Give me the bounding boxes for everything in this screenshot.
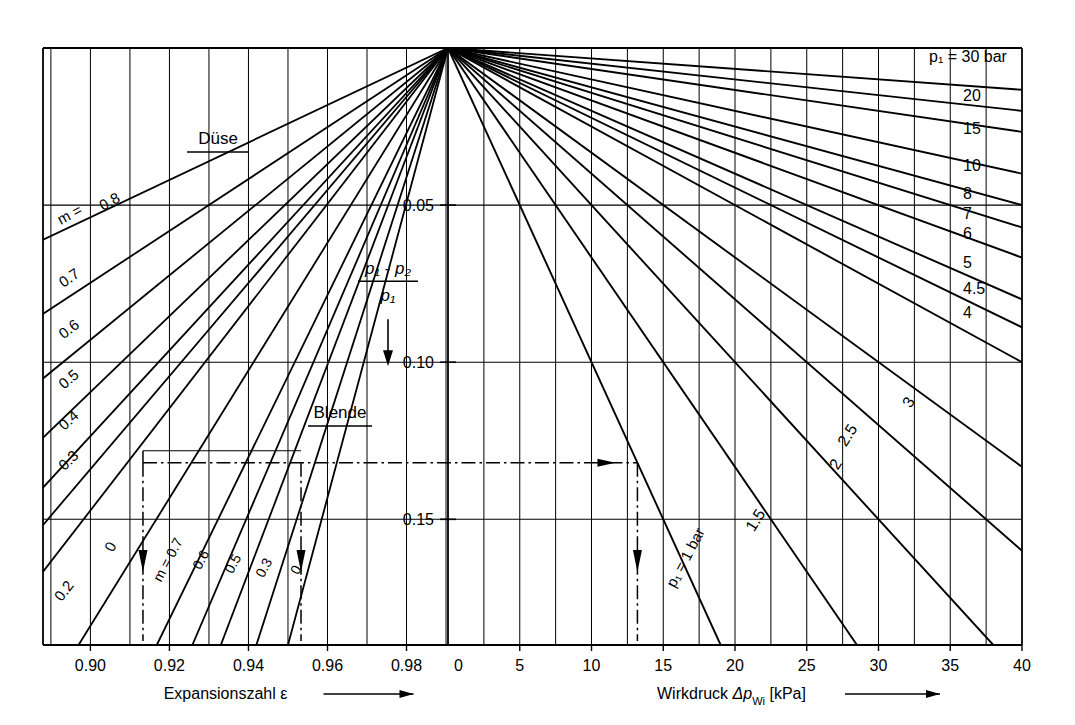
x-tick-right-20: 20 <box>726 657 744 674</box>
x-axis-title-left: Expansionszahl ε <box>164 685 288 702</box>
construction-arrow-down-wirkdruck <box>633 550 642 572</box>
x-tick-left-0.92: 0.92 <box>154 657 185 674</box>
p1-curve-2 <box>448 48 993 645</box>
duese-label-0: 0 <box>101 539 120 554</box>
duese-label-0.4: 0.4 <box>55 407 82 434</box>
p1-label-4p5: 4.5 <box>963 280 985 297</box>
duese-label-0.6: 0.6 <box>55 316 82 342</box>
p1-label-4: 4 <box>963 304 972 321</box>
p1-label-8: 8 <box>963 185 972 202</box>
x-tick-right-35: 35 <box>941 657 959 674</box>
p1-label-2: 2 <box>826 456 845 473</box>
y-tick-0.15: 0.15 <box>403 511 434 528</box>
duese-label-0.8: 0.8 <box>96 189 122 214</box>
p1-label-6: 6 <box>963 225 972 242</box>
blende-label-0.3: 0.3 <box>252 555 275 580</box>
construction-arrow-right <box>597 459 615 467</box>
x-tick-right-5: 5 <box>515 657 524 674</box>
group-title-duese: Düse <box>198 129 238 148</box>
x-tick-right-40: 40 <box>1013 657 1031 674</box>
x-tick-right-30: 30 <box>870 657 888 674</box>
duese-label-0.2: 0.2 <box>51 577 77 604</box>
x-axis-title-right: Wirkdruck ΔpWi [kPa] <box>657 685 806 707</box>
y-tick-0.05: 0.05 <box>403 197 434 214</box>
nomogram-figure: 0.900.920.940.960.9805101520253035400.05… <box>0 0 1075 725</box>
blende-curve-0.3 <box>256 48 448 645</box>
p1-label-10: 10 <box>963 157 981 174</box>
y-axis-label-numerator: p₁ - p₂ <box>364 259 411 278</box>
p1-label-3: 3 <box>899 394 918 411</box>
x-tick-left-0.98: 0.98 <box>391 657 422 674</box>
labels-layer: 0.900.920.940.960.9805101520253035400.05… <box>51 48 1031 707</box>
p1-label-5: 5 <box>963 254 972 271</box>
p1-series-header: p₁ = 30 bar <box>929 48 1008 65</box>
p1-label-7: 7 <box>963 205 972 222</box>
p1-label-15: 15 <box>963 120 981 137</box>
curves-layer <box>40 48 1022 645</box>
duese-curve-0 <box>79 48 448 645</box>
p1-label-2p5: 2.5 <box>834 421 860 449</box>
duese-curve-0.2 <box>40 48 448 576</box>
y-axis-label-denominator: p₁ <box>380 286 396 305</box>
group-title-blende: Blende <box>314 403 367 422</box>
x-tick-left-0.96: 0.96 <box>312 657 343 674</box>
duese-label-0.5: 0.5 <box>55 366 82 392</box>
duese-curve-0.8 <box>40 48 448 241</box>
p1-label-20: 20 <box>963 87 981 104</box>
x-tick-right-25: 25 <box>798 657 816 674</box>
x-tick-left-0.90: 0.90 <box>75 657 106 674</box>
x-tick-right-10: 10 <box>583 657 601 674</box>
construction-arrow-down-1 <box>138 550 147 572</box>
blende-curve-0.5 <box>221 48 448 645</box>
x-tick-right-15: 15 <box>654 657 672 674</box>
grid-layer <box>43 48 1022 651</box>
x-tick-left-zero: 0 <box>454 657 463 674</box>
duese-curve-0.5 <box>40 48 448 441</box>
y-tick-0.10: 0.10 <box>403 354 434 371</box>
blende-label-m0.7: m = 0.7 <box>149 535 185 584</box>
nomogram-canvas: 0.900.920.940.960.9805101520253035400.05… <box>0 0 1075 725</box>
duese-label-0.7: 0.7 <box>55 265 82 291</box>
x-tick-left-0.94: 0.94 <box>233 657 264 674</box>
x-axis-arrowhead-right <box>926 690 940 698</box>
y-axis-arrowhead-down <box>383 350 393 366</box>
duese-curve-0.6 <box>40 48 448 381</box>
x-axis-arrowhead-left <box>400 690 414 698</box>
construction-layer <box>138 451 641 641</box>
